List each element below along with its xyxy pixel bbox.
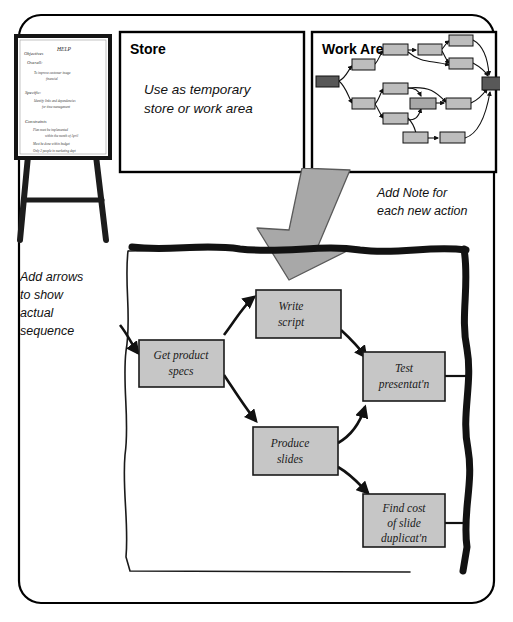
flipchart-section-1-bullet-1: for time management (42, 105, 70, 109)
flow-node-write-script[interactable]: Write script (256, 290, 341, 338)
wa-node-n6[interactable] (352, 98, 375, 109)
wa-node-end[interactable] (482, 77, 500, 90)
wa-node-n10[interactable] (446, 98, 471, 109)
work-area-panel[interactable]: Work Area (310, 30, 500, 176)
flipchart-section-2-bullet-0: Plan must be implemented (32, 128, 68, 132)
flow-node-test-presentation[interactable]: Test presentat'n (363, 352, 445, 401)
edge-produce-slides-to-find-cost (338, 467, 368, 493)
edge-produce-slides-to-test (338, 407, 365, 443)
flow-node-get-product-specs-line1: Get product (154, 349, 210, 362)
flow-node-test-presentation-line2: presentat'n (378, 378, 430, 391)
wa-node-n9[interactable] (410, 98, 436, 109)
flipchart-section-2-heading: Constraints (25, 119, 47, 124)
flipchart-section-0-bullet-1: financial (46, 77, 58, 81)
flipchart-section-0-bullet-0: To improve customer image (34, 71, 71, 75)
flipchart-section-1-bullet-0: Identify links and dependencies (33, 99, 76, 103)
flow-node-test-presentation-line1: Test (395, 362, 414, 374)
arrow-hint-line4: sequence (20, 324, 74, 338)
edge-get-specs-to-produce-slides (224, 375, 256, 421)
arrow-hint-annotation: Add arrows to show actual sequence (18, 268, 123, 353)
flipchart-section-2-bullet-1: within the month of April (45, 134, 78, 138)
store-panel-body-line2: store or work area (144, 101, 253, 116)
arrow-hint-line1: Add arrows (19, 270, 83, 284)
note-hint-annotation: Add Note for each new action (375, 182, 510, 228)
store-panel[interactable]: Store Use as temporary store or work are… (118, 30, 308, 176)
wa-node-n7[interactable] (383, 83, 408, 94)
note-hint-line2: each new action (377, 204, 467, 218)
flow-node-find-cost-line1: Find cost (381, 502, 426, 514)
flow-node-write-script-line2: script (278, 316, 305, 329)
flow-node-produce-slides-line1: Produce (270, 437, 310, 449)
flow-node-write-script-line1: Write (279, 300, 304, 312)
wa-node-n3[interactable] (418, 44, 442, 55)
flipchart-section-0-subheading: Overall: (27, 60, 43, 65)
flow-node-produce-slides-line2: slides (277, 453, 304, 465)
flowchart-border-top-thick (132, 247, 466, 252)
sequence-flowchart[interactable]: Get product specs Write script Produce s… (110, 235, 490, 585)
arrow-hint-line2: to show (20, 288, 64, 302)
easel-legs (20, 156, 106, 240)
store-panel-title: Store (130, 41, 166, 57)
edge-get-specs-to-write-script (224, 297, 254, 335)
flow-node-get-product-specs-line2: specs (169, 365, 194, 378)
flow-node-produce-slides[interactable]: Produce slides (253, 427, 338, 475)
flipchart-title: HELP (56, 46, 72, 52)
store-panel-body-line1: Use as temporary (144, 82, 252, 97)
flow-node-find-cost-line2: of slide (387, 517, 421, 530)
flow-node-find-cost-line3: duplicat'n (381, 532, 427, 545)
edge-border-to-get-product-specs (120, 325, 138, 353)
wa-node-n1[interactable] (352, 59, 375, 70)
flipchart-section-2-bullet-2: Must be done within budget (32, 142, 70, 146)
arrow-hint-line3: actual (20, 306, 55, 320)
flipchart-section-2-bullet-3: Only 2 people in marketing dept (33, 149, 76, 153)
flow-node-get-product-specs[interactable]: Get product specs (139, 340, 224, 387)
flowchart-nodes: Get product specs Write script Produce s… (139, 290, 445, 547)
flowchart-border-connectors (445, 376, 466, 523)
wa-node-n5[interactable] (449, 58, 473, 69)
wa-node-n4[interactable] (449, 35, 473, 46)
flipchart-section-1-heading: Specific: (25, 90, 42, 95)
flow-node-find-cost[interactable]: Find cost of slide duplicat'n (363, 494, 445, 547)
wa-node-start[interactable] (316, 76, 339, 87)
wa-node-n8[interactable] (383, 113, 408, 124)
wa-node-n11[interactable] (403, 132, 428, 143)
wa-node-n12[interactable] (440, 132, 465, 143)
slide-canvas: HELP Objectives Overall: To improve cust… (0, 0, 513, 622)
note-hint-line1: Add Note for (376, 186, 448, 200)
wa-node-n2[interactable] (383, 44, 408, 55)
flipchart-section-0-heading: Objectives (24, 51, 44, 56)
